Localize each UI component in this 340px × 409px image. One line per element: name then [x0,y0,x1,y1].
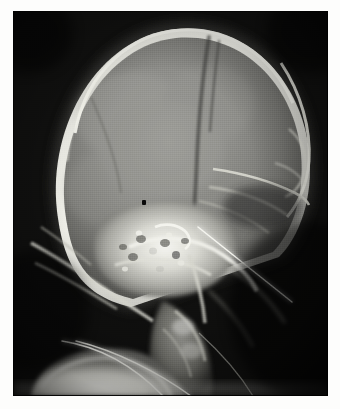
radiograph-page [0,0,340,409]
caption [0,400,340,409]
opaque-dot-marker [142,200,146,205]
radiograph-image [13,11,328,396]
radiograph-plate [13,11,328,396]
